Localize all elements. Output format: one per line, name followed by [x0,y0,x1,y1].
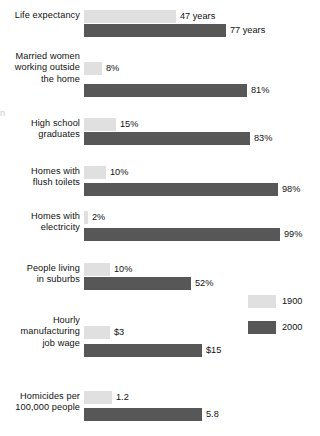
bar-1900 [84,263,110,276]
row-bars: 1.2 5.8 [84,391,320,421]
row-label-line: Homes with [0,166,80,177]
chart-row: Life expectancy 47 years 77 years [0,10,320,37]
row-label-line: Homes with [0,211,80,222]
bar-value-2000: 81% [247,84,269,97]
bar-value-2000: 99% [280,228,302,241]
bar-value-2000: 98% [278,183,300,196]
bar-value-2000: 83% [250,132,272,145]
row-label: Hourly manufacturing job wage [0,315,84,349]
row-bars: 47 years 77 years [84,10,320,37]
chart-row: People living in suburbs 10% 52% [0,263,320,290]
bar-value-1900: 15% [116,118,138,131]
bar-line-2000: 81% [84,84,320,97]
row-label-line: working outside [0,62,80,73]
row-label: Life expectancy [0,10,84,21]
row-label-line: People living [0,263,80,274]
bar-value-1900: 2% [88,211,105,224]
row-label-line: manufacturing [0,326,80,337]
bar-line-2000: 98% [84,183,320,196]
bar-value-1900: 47 years [176,10,215,23]
chart-row: Homes with flush toilets 10% 98% [0,166,320,196]
row-bars: 8% 81% [84,62,320,97]
bar-value-1900: 10% [110,263,132,276]
bar-2000 [84,408,202,421]
bar-2000 [84,277,191,290]
row-label: People living in suburbs [0,263,84,286]
bar-1900 [84,118,116,131]
bar-line-2000: $15 [84,344,320,357]
row-label: Homes with electricity [0,211,84,234]
comparison-bar-chart: n Life expectancy 47 years 77 years Marr… [0,0,320,436]
row-bars: 10% 98% [84,166,320,196]
legend-item-1900: 1900 [248,295,302,308]
row-label-line: the home [0,74,80,85]
row-label: High school graduates [0,118,84,141]
bar-2000 [84,24,226,37]
row-label-line: flush toilets [0,177,80,188]
bar-value-2000: $15 [202,344,221,357]
row-bars: 10% 52% [84,263,320,290]
bar-value-1900: 1.2 [112,391,129,404]
bar-2000 [84,183,278,196]
row-label-line: 100,000 people [0,402,80,413]
bar-1900 [84,62,102,75]
row-label-line: Life expectancy [0,10,80,21]
bar-line-1900: 47 years [84,10,320,23]
bar-line-2000: 5.8 [84,408,320,421]
row-label-line: graduates [0,129,80,140]
row-label-line: Married women [0,51,80,62]
legend-swatch-2000 [248,321,276,334]
bar-2000 [84,84,247,97]
bar-2000 [84,344,202,357]
bar-1900 [84,391,112,404]
bar-line-1900: 2% [84,211,320,224]
row-label: Married women working outside the home [0,51,84,85]
bar-line-1900: 10% [84,166,320,179]
bar-line-2000: 99% [84,228,320,241]
bar-1900 [84,10,176,23]
row-label-line: Hourly [0,315,80,326]
legend-item-2000: 2000 [248,321,302,334]
bar-line-1900: 1.2 [84,391,320,404]
chart-legend: 1900 2000 [248,295,302,334]
bar-line-1900: 10% [84,263,320,276]
bar-1900 [84,166,106,179]
bar-1900 [84,326,110,339]
chart-row: Homes with electricity 2% 99% [0,211,320,241]
bar-value-2000: 5.8 [202,408,219,421]
legend-label-2000: 2000 [276,321,302,334]
bar-2000 [84,132,250,145]
bar-value-2000: 52% [191,277,213,290]
bar-value-1900: $3 [110,326,124,339]
chart-row: Married women working outside the home 8… [0,62,320,97]
chart-row: High school graduates 15% 83% [0,118,320,145]
row-bars: 2% 99% [84,211,320,241]
bar-value-1900: 8% [102,62,119,75]
bar-line-2000: 52% [84,277,320,290]
row-label-line: electricity [0,222,80,233]
row-bars: 15% 83% [84,118,320,145]
row-label-line: job wage [0,338,80,349]
row-label: Homes with flush toilets [0,166,84,189]
bar-value-1900: 10% [106,166,128,179]
bar-line-2000: 77 years [84,24,320,37]
row-label-line: Homicides per [0,391,80,402]
bar-line-1900: 15% [84,118,320,131]
bar-line-1900: 8% [84,62,320,75]
bar-value-2000: 77 years [226,24,265,37]
legend-label-1900: 1900 [276,295,302,308]
row-label-line: High school [0,118,80,129]
row-label: Homicides per 100,000 people [0,391,84,414]
bar-line-2000: 83% [84,132,320,145]
row-label-line: in suburbs [0,274,80,285]
chart-row: Homicides per 100,000 people 1.2 5.8 [0,391,320,421]
bar-2000 [84,228,280,241]
legend-swatch-1900 [248,295,276,308]
